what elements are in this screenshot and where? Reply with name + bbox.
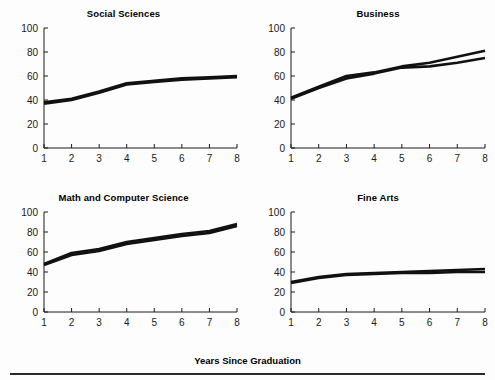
svg-text:1: 1 [41, 153, 47, 164]
svg-text:60: 60 [274, 247, 286, 258]
svg-text:2: 2 [316, 153, 322, 164]
svg-text:1: 1 [288, 317, 294, 328]
svg-text:80: 80 [274, 47, 286, 58]
svg-text:6: 6 [427, 153, 433, 164]
svg-text:100: 100 [21, 207, 38, 218]
svg-text:3: 3 [344, 153, 350, 164]
svg-text:4: 4 [371, 153, 377, 164]
svg-text:80: 80 [27, 227, 39, 238]
svg-text:60: 60 [27, 71, 39, 82]
figure-panel-grid: Social Sciences 02040608010012345678 Bus… [0, 0, 495, 380]
svg-text:40: 40 [274, 267, 286, 278]
plot-area-fine-arts: 02040608010012345678 [247, 184, 495, 348]
svg-text:1: 1 [288, 153, 294, 164]
svg-text:0: 0 [279, 307, 285, 318]
plot-area-math-and-computer-science: 02040608010012345678 [0, 184, 247, 348]
svg-text:8: 8 [482, 317, 488, 328]
subplot-grid: Social Sciences 02040608010012345678 Bus… [0, 0, 495, 348]
svg-text:6: 6 [179, 317, 185, 328]
subplot-math-and-computer-science: Math and Computer Science 02040608010012… [0, 184, 247, 348]
svg-text:100: 100 [21, 23, 38, 34]
svg-text:7: 7 [455, 153, 461, 164]
svg-text:20: 20 [274, 287, 286, 298]
svg-text:40: 40 [27, 267, 39, 278]
svg-text:3: 3 [96, 317, 102, 328]
svg-text:0: 0 [32, 307, 38, 318]
svg-text:3: 3 [96, 153, 102, 164]
svg-text:8: 8 [234, 317, 240, 328]
svg-text:2: 2 [69, 317, 75, 328]
svg-text:3: 3 [344, 317, 350, 328]
svg-text:60: 60 [274, 71, 286, 82]
svg-text:20: 20 [27, 119, 39, 130]
svg-text:4: 4 [124, 317, 130, 328]
svg-text:5: 5 [399, 153, 405, 164]
subplot-fine-arts: Fine Arts 02040608010012345678 [247, 184, 495, 348]
svg-text:0: 0 [279, 143, 285, 154]
figure-xlabel: Years Since Graduation [0, 355, 495, 366]
svg-text:5: 5 [152, 153, 158, 164]
svg-text:80: 80 [274, 227, 286, 238]
svg-text:100: 100 [268, 23, 285, 34]
svg-text:6: 6 [179, 153, 185, 164]
svg-text:1: 1 [41, 317, 47, 328]
svg-text:2: 2 [69, 153, 75, 164]
svg-text:8: 8 [482, 153, 488, 164]
svg-text:60: 60 [27, 247, 39, 258]
svg-text:4: 4 [124, 153, 130, 164]
svg-text:5: 5 [399, 317, 405, 328]
svg-text:6: 6 [427, 317, 433, 328]
subplot-business: Business 02040608010012345678 [247, 0, 495, 184]
bottom-divider [10, 373, 485, 375]
svg-text:0: 0 [32, 143, 38, 154]
plot-area-business: 02040608010012345678 [247, 0, 495, 184]
svg-text:20: 20 [27, 287, 39, 298]
svg-text:80: 80 [27, 47, 39, 58]
svg-text:7: 7 [207, 317, 213, 328]
subplot-social-sciences: Social Sciences 02040608010012345678 [0, 0, 247, 184]
svg-text:40: 40 [27, 95, 39, 106]
svg-text:5: 5 [152, 317, 158, 328]
svg-text:20: 20 [274, 119, 286, 130]
svg-text:40: 40 [274, 95, 286, 106]
plot-area-social-sciences: 02040608010012345678 [0, 0, 247, 184]
svg-text:7: 7 [455, 317, 461, 328]
svg-text:8: 8 [234, 153, 240, 164]
svg-text:4: 4 [371, 317, 377, 328]
svg-text:2: 2 [316, 317, 322, 328]
svg-text:100: 100 [268, 207, 285, 218]
svg-text:7: 7 [207, 153, 213, 164]
